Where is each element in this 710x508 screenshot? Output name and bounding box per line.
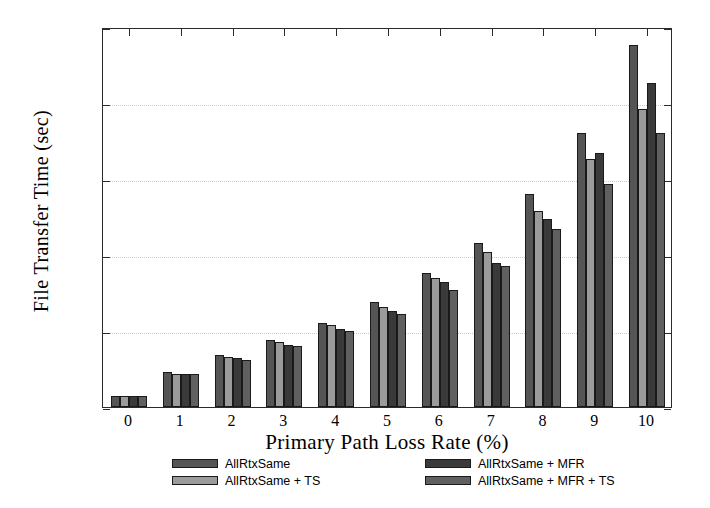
bar bbox=[595, 153, 604, 407]
bar bbox=[172, 374, 181, 407]
gridline bbox=[103, 105, 671, 106]
bar-group bbox=[525, 194, 561, 407]
x-axis-tick-label: 1 bbox=[160, 412, 200, 430]
bar bbox=[586, 159, 595, 407]
bar bbox=[638, 109, 647, 407]
x-axis-tick bbox=[647, 29, 648, 36]
legend-item: AllRtxSame + TS bbox=[172, 472, 399, 489]
legend-label: AllRtxSame + MFR bbox=[478, 457, 585, 471]
chart-legend: AllRtxSameAllRtxSame + MFRAllRtxSame + T… bbox=[172, 455, 652, 489]
bar-group bbox=[474, 243, 510, 407]
y-axis-tick bbox=[103, 181, 110, 182]
y-axis-tick bbox=[664, 409, 671, 410]
bar bbox=[388, 311, 397, 407]
x-axis-tick bbox=[284, 29, 285, 36]
plot-area bbox=[102, 28, 672, 408]
x-axis-tick-label: 6 bbox=[419, 412, 459, 430]
bar bbox=[242, 360, 251, 407]
x-axis-tick bbox=[543, 29, 544, 36]
x-axis-title: Primary Path Loss Rate (%) bbox=[102, 430, 672, 455]
x-axis-tick bbox=[440, 29, 441, 36]
bar bbox=[440, 282, 449, 407]
x-axis-tick bbox=[129, 29, 130, 36]
x-axis-tick bbox=[492, 29, 493, 36]
legend-label: AllRtxSame bbox=[225, 457, 290, 471]
bar bbox=[181, 374, 190, 407]
bar bbox=[129, 396, 138, 407]
bar bbox=[656, 133, 665, 407]
bar bbox=[431, 278, 440, 407]
x-axis-tick-label: 5 bbox=[367, 412, 407, 430]
bar bbox=[492, 263, 501, 407]
x-axis-tick-label: 7 bbox=[471, 412, 511, 430]
bar-group bbox=[111, 396, 147, 407]
x-axis-tick bbox=[595, 29, 596, 36]
bar bbox=[577, 133, 586, 407]
bar bbox=[397, 314, 406, 407]
bar bbox=[215, 355, 224, 407]
legend-item: AllRtxSame + MFR bbox=[425, 455, 652, 472]
bar bbox=[501, 266, 510, 407]
bar bbox=[647, 83, 656, 407]
bar bbox=[370, 302, 379, 407]
legend-swatch bbox=[425, 459, 471, 468]
bar bbox=[293, 346, 302, 407]
bar-group bbox=[266, 340, 302, 407]
legend-swatch bbox=[172, 459, 218, 468]
y-axis-tick bbox=[103, 333, 110, 334]
bar bbox=[111, 396, 120, 407]
bar bbox=[284, 345, 293, 407]
bar bbox=[327, 325, 336, 407]
bar bbox=[345, 331, 354, 407]
legend-item: AllRtxSame + MFR + TS bbox=[425, 472, 652, 489]
bar bbox=[275, 342, 284, 407]
bar bbox=[233, 358, 242, 407]
bar bbox=[120, 396, 129, 407]
bar-group bbox=[370, 302, 406, 407]
bar bbox=[190, 374, 199, 407]
x-axis-tick-label: 2 bbox=[212, 412, 252, 430]
y-axis-tick bbox=[103, 29, 110, 30]
x-axis-tick-label: 8 bbox=[522, 412, 562, 430]
bar bbox=[449, 290, 458, 407]
bar-group bbox=[215, 355, 251, 407]
bar bbox=[483, 252, 492, 407]
x-axis-tick-label: 10 bbox=[626, 412, 666, 430]
legend-swatch bbox=[425, 476, 471, 485]
bar-group bbox=[629, 45, 665, 407]
legend-label: AllRtxSame + TS bbox=[225, 474, 320, 488]
bar bbox=[336, 329, 345, 407]
y-axis-tick bbox=[103, 409, 110, 410]
x-axis-tick-label: 0 bbox=[108, 412, 148, 430]
bar-group bbox=[318, 323, 354, 407]
y-axis-title: File Transfer Time (sec) bbox=[26, 16, 56, 406]
y-axis-tick bbox=[103, 257, 110, 258]
x-axis-tick-label: 3 bbox=[263, 412, 303, 430]
bar bbox=[163, 372, 172, 407]
y-axis-tick bbox=[664, 29, 671, 30]
legend-label: AllRtxSame + MFR + TS bbox=[478, 474, 615, 488]
x-axis-tick-label: 4 bbox=[315, 412, 355, 430]
legend-swatch bbox=[172, 476, 218, 485]
bar bbox=[525, 194, 534, 407]
bar-group bbox=[163, 372, 199, 407]
bar bbox=[474, 243, 483, 407]
bar bbox=[552, 229, 561, 407]
bar-group bbox=[577, 133, 613, 407]
bar bbox=[379, 307, 388, 407]
x-axis-tick bbox=[336, 29, 337, 36]
x-axis-tick bbox=[181, 29, 182, 36]
bar bbox=[534, 211, 543, 407]
bar bbox=[318, 323, 327, 407]
bar bbox=[224, 357, 233, 407]
bar bbox=[543, 219, 552, 407]
bar bbox=[422, 273, 431, 407]
bar-group bbox=[422, 273, 458, 407]
x-axis-tick-label: 9 bbox=[574, 412, 614, 430]
x-axis-tick bbox=[388, 29, 389, 36]
bar bbox=[604, 184, 613, 407]
legend-item: AllRtxSame bbox=[172, 455, 399, 472]
bar bbox=[266, 340, 275, 407]
bar bbox=[629, 45, 638, 407]
x-axis-tick bbox=[233, 29, 234, 36]
